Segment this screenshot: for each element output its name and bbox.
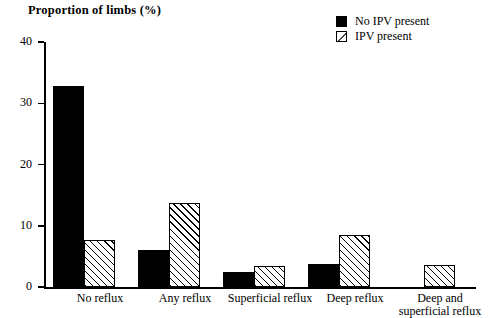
x-axis-label-deep-and-superficial-reflux: Deep and superficial reflux [382,292,488,317]
y-axis-tick [38,41,44,43]
legend-item-ipv: IPV present [336,29,429,43]
chart-title: Proportion of limbs (%) [28,3,161,18]
legend-item-no-ipv: No IPV present [336,14,429,28]
y-axis-tick-label: 10 [2,219,32,231]
y-axis-tick-label: 40 [2,35,32,47]
bar-ipv-present-deep-and-superficial-reflux [424,265,455,287]
legend-label-ipv: IPV present [355,30,412,42]
legend-swatch-solid-black-swatch [336,16,347,27]
y-axis-tick [38,286,44,288]
chart-legend: No IPV present IPV present [336,14,429,44]
bar-ipv-present-any-reflux [169,203,200,287]
legend-swatch-hatched-swatch [336,31,347,42]
y-axis-tick [38,103,44,105]
y-axis-tick-label: 30 [2,96,32,108]
bar-no-ipv-present-deep-reflux [308,264,339,287]
y-axis-line [44,42,46,288]
bar-no-ipv-present-no-reflux [53,86,84,287]
bar-no-ipv-present-any-reflux [138,250,169,287]
legend-label-no-ipv: No IPV present [355,15,429,27]
bar-no-ipv-present-superficial-reflux [223,272,254,287]
y-axis-tick [38,164,44,166]
y-axis-tick [38,225,44,227]
x-axis-line [44,287,476,289]
y-axis-tick-label: 20 [2,158,32,170]
bar-ipv-present-superficial-reflux [254,266,285,287]
bar-ipv-present-deep-reflux [339,235,370,287]
y-axis-tick-label: 0 [2,280,32,292]
bar-ipv-present-no-reflux [84,240,115,287]
